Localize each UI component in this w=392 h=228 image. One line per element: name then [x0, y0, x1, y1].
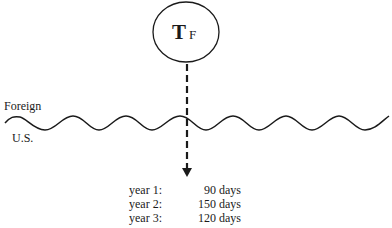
- days-schedule: year 1: 90 days year 2: 150 days year 3:…: [129, 183, 241, 225]
- year-label: year 1:: [129, 183, 189, 197]
- us-label: U.S.: [12, 132, 33, 145]
- days-value: 120 days: [189, 211, 241, 225]
- days-value: 90 days: [189, 183, 241, 197]
- arrow-head-icon: [182, 168, 192, 177]
- foreign-label: Foreign: [4, 100, 41, 113]
- schedule-row: year 2: 150 days: [129, 197, 241, 211]
- node-letter: T: [172, 20, 186, 44]
- node-subscript: F: [189, 27, 196, 42]
- year-label: year 3:: [129, 211, 189, 225]
- schedule-row: year 1: 90 days: [129, 183, 241, 197]
- year-label: year 2:: [129, 197, 189, 211]
- schedule-row: year 3: 120 days: [129, 211, 241, 225]
- days-value: 150 days: [189, 197, 241, 211]
- border-wave: [5, 116, 389, 130]
- taxpayer-node-label: TF: [158, 20, 210, 45]
